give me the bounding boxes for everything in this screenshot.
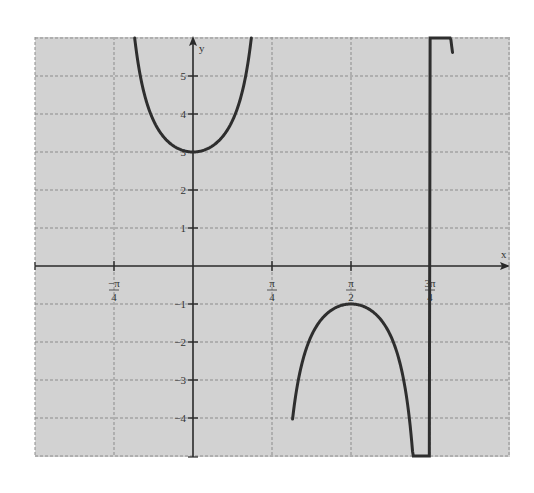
x-tick-denominator: 2 [348, 291, 354, 303]
y-axis-label: y [199, 42, 205, 54]
y-tick-label: −4 [174, 412, 186, 424]
y-tick-label: −2 [174, 336, 186, 348]
y-tick-label: 3 [181, 146, 187, 158]
x-tick-numerator: π [269, 277, 275, 289]
y-tick-label: 4 [181, 108, 187, 120]
x-tick-numerator: 3π [424, 277, 436, 289]
x-tick-numerator: −π [108, 277, 120, 289]
x-tick-numerator: π [348, 277, 354, 289]
x-tick-denominator: 4 [111, 291, 117, 303]
y-tick-label: −1 [174, 298, 186, 310]
y-tick-label: 2 [181, 184, 187, 196]
y-tick-label: −3 [174, 374, 186, 386]
x-axis-label: x [501, 248, 507, 260]
y-tick-label: 5 [181, 70, 187, 82]
y-tick-label: 1 [181, 222, 187, 234]
x-tick-denominator: 4 [269, 291, 275, 303]
x-tick-denominator: 4 [427, 291, 433, 303]
graph: 54321−1−2−3−4−π4π4π23π4xy [0, 0, 534, 493]
